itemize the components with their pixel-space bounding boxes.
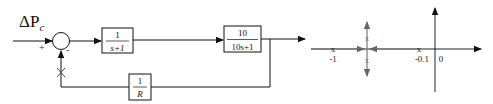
transfer-block-feedback: 1 R — [129, 74, 151, 100]
svg-text:10: 10 — [238, 28, 248, 38]
minus-sign: - — [66, 44, 69, 55]
block-diagram: ΔPc + - 1 s+1 10 10s+1 — [13, 12, 305, 100]
label-origin: 0 — [439, 54, 444, 64]
root-locus-plot: x x x x -1 -0.1 0 — [311, 8, 481, 92]
svg-text:10s+1: 10s+1 — [231, 42, 253, 52]
svg-text:1: 1 — [115, 30, 120, 40]
label-minus-1: -1 — [329, 54, 337, 64]
pole-marker-minus-0.1: x — [417, 44, 422, 54]
diagram-canvas: ΔPc + - 1 s+1 10 10s+1 — [0, 0, 493, 104]
svg-text:R: R — [136, 89, 143, 99]
svg-text:s+1: s+1 — [110, 43, 124, 53]
closed-loop-pole-lower: x — [365, 56, 369, 65]
input-label: ΔPc — [19, 12, 44, 33]
svg-text:1: 1 — [138, 76, 143, 86]
feedback-return-line — [61, 51, 129, 87]
transfer-block-turbine: 10 10s+1 — [224, 26, 261, 52]
closed-loop-pole-upper: x — [365, 34, 369, 43]
plus-sign: + — [39, 42, 45, 53]
transfer-block-governor: 1 s+1 — [102, 28, 133, 53]
label-minus-0.1: -0.1 — [415, 54, 429, 64]
pole-marker-minus-1: x — [331, 44, 336, 54]
